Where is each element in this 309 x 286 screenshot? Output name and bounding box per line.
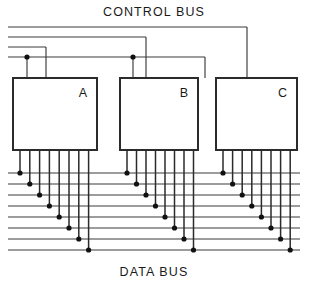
data-junction-dot-c-1 (230, 181, 235, 186)
control-junction-dot-2 (130, 54, 135, 59)
bus-diagram: ABC CONTROL BUS DATA BUS (0, 0, 309, 286)
diagram-canvas: ABC CONTROL BUS DATA BUS (0, 0, 309, 286)
data-junction-dot-c-7 (288, 247, 293, 252)
data-junction-dot-a-3 (47, 203, 52, 208)
control-junction-dot-1 (24, 54, 29, 59)
data-junction-dot-a-5 (66, 225, 71, 230)
data-junction-dot-b-4 (162, 214, 167, 219)
data-junction-dot-c-4 (259, 214, 264, 219)
data-junction-dot-c-3 (249, 203, 254, 208)
data-junction-dot-b-5 (172, 225, 177, 230)
data-junction-dot-b-0 (124, 170, 129, 175)
block-label-a: A (79, 86, 88, 100)
data-junction-dot-b-2 (143, 192, 148, 197)
data-junction-dot-c-2 (240, 192, 245, 197)
data-junction-dot-a-1 (27, 181, 32, 186)
data-junction-dot-a-4 (57, 214, 62, 219)
data-junction-dot-c-5 (268, 225, 273, 230)
control-bus-group (8, 27, 247, 78)
block-label-b: B (180, 86, 188, 100)
data-junction-dot-a-7 (86, 247, 91, 252)
block-label-c: C (278, 86, 287, 100)
data-junction-dot-b-6 (181, 236, 186, 241)
data-junction-dot-b-3 (153, 203, 158, 208)
data-junction-dot-a-0 (17, 170, 22, 175)
data-junction-dot-a-2 (37, 192, 42, 197)
data-junction-dot-b-1 (134, 181, 139, 186)
blocks-group: ABC (13, 78, 297, 150)
data-junction-dot-c-0 (220, 170, 225, 175)
data-junction-dot-a-6 (76, 236, 81, 241)
control-bus-title: CONTROL BUS (103, 5, 205, 19)
data-bus-title: DATA BUS (120, 265, 189, 279)
data-bus-group (8, 150, 300, 253)
data-junction-dot-b-7 (191, 247, 196, 252)
data-junction-dot-c-6 (278, 236, 283, 241)
